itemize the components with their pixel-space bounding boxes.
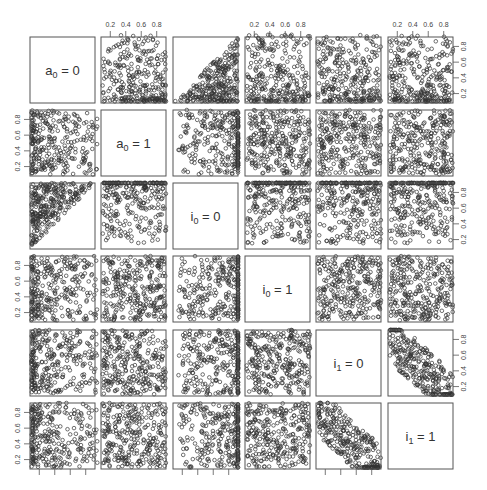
tick-label: 0.2	[460, 89, 467, 99]
tick-label: 0.8	[296, 21, 306, 28]
scatter-panel	[101, 254, 167, 322]
top-axis: 0.20.40.60.8	[105, 21, 161, 37]
diagonal-panel: i1 = 1	[388, 403, 453, 469]
right-axis: 0.20.40.60.8	[453, 41, 467, 98]
tick-label: 0.6	[423, 21, 433, 28]
scatterplot-matrix: a0 = 0a0 = 1i0 = 0i0 = 1i1 = 0i1 = 10.20…	[0, 0, 487, 490]
tick-label: 0.6	[14, 276, 21, 286]
tick-label: 0.4	[14, 439, 21, 449]
scatter-panel	[101, 34, 168, 104]
tick-label: 0.2	[14, 308, 21, 318]
tick-label: 0.4	[460, 73, 467, 83]
left-axis: 0.20.40.60.8	[14, 260, 30, 317]
variable-label: i1 = 0	[334, 356, 364, 373]
tick-label: 0.4	[14, 292, 21, 302]
diagonal-panel: a0 = 0	[30, 37, 95, 103]
tick-label: 0.6	[14, 130, 21, 140]
tick-label: 0.4	[14, 146, 21, 156]
tick-label: 0.6	[136, 21, 146, 28]
variable-label: i0 = 1	[263, 282, 293, 299]
tick-label: 0.2	[14, 455, 21, 465]
variable-label: a0 = 1	[116, 136, 150, 153]
tick-label: 0.6	[460, 203, 467, 213]
scatter-panel	[101, 181, 168, 249]
diagonal-panel: i0 = 1	[245, 256, 310, 322]
scatter-panel	[245, 328, 312, 396]
tick-label: 0.2	[14, 162, 21, 172]
tick-label: 0.4	[265, 21, 275, 28]
bottom-axis	[39, 469, 85, 475]
right-axis: 0.20.40.60.8	[453, 334, 467, 391]
tick-label: 0.6	[280, 21, 290, 28]
scatter-panel	[30, 109, 99, 177]
left-axis: 0.20.40.60.8	[14, 407, 30, 464]
scatter-panel	[245, 33, 312, 103]
scatter-panel	[173, 108, 240, 176]
scatter-panel	[316, 108, 383, 176]
scatter-panel	[173, 37, 240, 104]
scatter-panel	[388, 109, 455, 177]
scatter-panel	[316, 181, 383, 249]
bottom-axis	[182, 469, 228, 475]
tick-label: 0.8	[14, 407, 21, 417]
scatter-panel	[316, 401, 383, 469]
tick-label: 0.8	[14, 114, 21, 124]
scatter-panel	[30, 401, 99, 469]
left-axis: 0.20.40.60.8	[14, 114, 30, 171]
tick-label: 0.2	[249, 21, 259, 28]
diagonal-panel: a0 = 1	[101, 110, 166, 176]
variable-label: i1 = 1	[406, 429, 436, 446]
tick-label: 0.6	[14, 423, 21, 433]
tick-label: 0.4	[121, 21, 131, 28]
tick-label: 0.6	[460, 350, 467, 360]
scatter-panel	[101, 329, 168, 396]
scatter-panel	[30, 328, 99, 396]
tick-label: 0.4	[460, 366, 467, 376]
tick-label: 0.8	[14, 260, 21, 270]
scatter-panel	[30, 181, 95, 249]
tick-label: 0.2	[392, 21, 402, 28]
tick-label: 0.8	[460, 187, 467, 197]
bottom-axis	[325, 469, 371, 475]
tick-label: 0.2	[105, 21, 115, 28]
tick-label: 0.2	[460, 382, 467, 392]
tick-label: 0.8	[152, 21, 162, 28]
tick-label: 0.6	[460, 57, 467, 67]
scatter-panel	[173, 254, 240, 322]
scatter-panel	[388, 328, 455, 396]
scatter-panel	[388, 254, 455, 322]
tick-label: 0.8	[460, 334, 467, 344]
tick-label: 0.4	[460, 219, 467, 229]
tick-label: 0.4	[408, 21, 418, 28]
scatter-panel	[173, 329, 240, 397]
scatter-panel	[30, 254, 99, 322]
scatter-panel	[101, 401, 168, 469]
scatter-panel	[245, 181, 312, 249]
tick-label: 0.8	[439, 21, 449, 28]
diagonal-panel: i0 = 0	[173, 183, 238, 249]
scatter-panel	[245, 108, 312, 176]
top-axis: 0.20.40.60.8	[249, 21, 305, 37]
diagonal-panel: i1 = 0	[316, 330, 381, 396]
variable-label: a0 = 0	[45, 63, 79, 80]
scatter-panel	[388, 181, 455, 249]
scatter-panel	[173, 402, 240, 470]
tick-label: 0.2	[460, 235, 467, 245]
scatter-panel	[316, 254, 383, 322]
variable-label: i0 = 0	[191, 209, 221, 226]
scatter-panel	[245, 401, 312, 469]
tick-label: 0.8	[460, 41, 467, 51]
scatter-panel	[388, 34, 455, 103]
scatter-panel	[316, 33, 383, 103]
right-axis: 0.20.40.60.8	[453, 187, 467, 244]
